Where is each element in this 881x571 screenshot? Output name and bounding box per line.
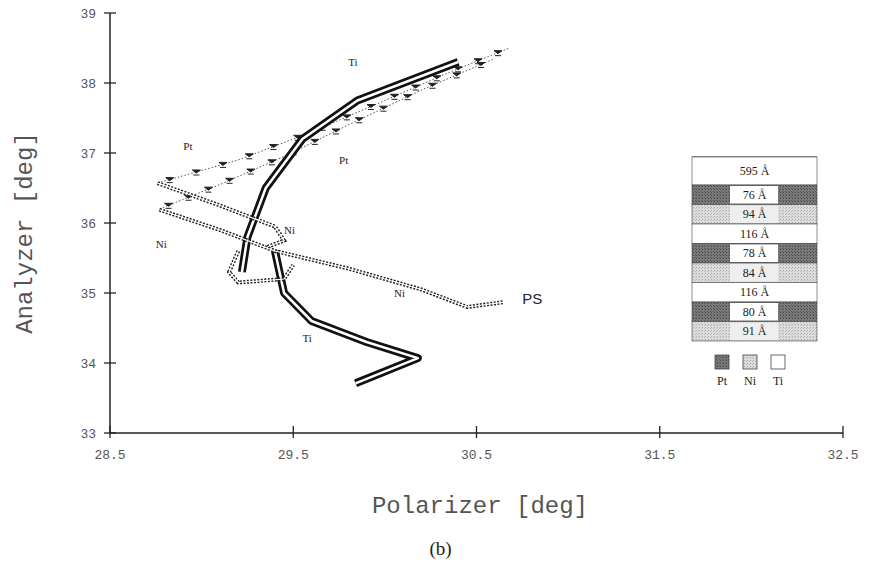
annotations: TiPtPtNiNiNiTiPS (156, 56, 543, 345)
annotation-ni: Ni (284, 224, 295, 236)
layer-pt: 80 Å (692, 302, 817, 322)
layer-ni: 91 Å (692, 322, 817, 342)
annotation-ps: PS (522, 290, 542, 307)
annotation-ti: Ti (302, 332, 311, 344)
annotation-pt: Pt (339, 154, 348, 166)
svg-text:76 Å: 76 Å (743, 188, 767, 202)
annotation-ni: Ni (394, 287, 405, 299)
y-tick-label: 39 (80, 7, 96, 22)
svg-text:116 Å: 116 Å (740, 227, 770, 241)
layer-ti: 595 Å (692, 157, 817, 185)
annotation-ni: Ni (156, 238, 167, 250)
series-ni-lower- (159, 210, 504, 307)
svg-text:Ni: Ni (744, 374, 757, 388)
chart: 28.529.530.531.532.533343536373839Polari… (0, 0, 881, 571)
svg-text:94 Å: 94 Å (743, 207, 767, 221)
series-ti-lower-tail- (275, 251, 418, 383)
layer-stack-inset: 595 Å76 Å94 Å116 Å78 Å84 Å116 Å80 Å91 ÅP… (692, 157, 817, 388)
y-tick-label: 37 (80, 147, 96, 162)
y-tick-label: 35 (80, 287, 96, 302)
svg-text:Pt: Pt (717, 374, 728, 388)
annotation-ti: Ti (348, 56, 357, 68)
legend-key-pt: Pt (715, 355, 729, 388)
x-axis-title: Polarizer [deg] (372, 493, 588, 520)
x-tick-label: 32.5 (827, 448, 858, 463)
y-axis-title: Analyzer [deg] (12, 132, 39, 334)
x-tick-label: 31.5 (644, 448, 675, 463)
svg-text:Ti: Ti (773, 374, 784, 388)
data-series (158, 48, 510, 383)
svg-text:84 Å: 84 Å (743, 266, 767, 280)
x-tick-label: 30.5 (461, 448, 492, 463)
figure-caption: (b) (0, 538, 881, 560)
annotation-pt: Pt (183, 140, 192, 152)
legend-key-ni: Ni (743, 355, 757, 388)
svg-text:116 Å: 116 Å (740, 285, 770, 299)
y-tick-label: 34 (80, 357, 96, 372)
series-pt-lower- (159, 59, 494, 210)
y-tick-label: 36 (80, 217, 96, 232)
svg-text:595 Å: 595 Å (740, 164, 770, 178)
x-tick-label: 28.5 (94, 448, 125, 463)
svg-text:91 Å: 91 Å (743, 324, 767, 338)
svg-text:78 Å: 78 Å (743, 246, 767, 260)
y-tick-label: 33 (80, 427, 96, 442)
layer-pt: 76 Å (692, 185, 817, 205)
x-tick-label: 29.5 (278, 448, 309, 463)
y-tick-label: 38 (80, 77, 96, 92)
layer-ti: 116 Å (692, 224, 817, 244)
layer-ti: 116 Å (692, 283, 817, 303)
layer-ni: 84 Å (692, 263, 817, 283)
legend-key-ti: Ti (771, 355, 785, 388)
layer-ni: 94 Å (692, 205, 817, 225)
svg-text:80 Å: 80 Å (743, 305, 767, 319)
layer-pt: 78 Å (692, 244, 817, 264)
series-ti-outer- (242, 62, 458, 272)
